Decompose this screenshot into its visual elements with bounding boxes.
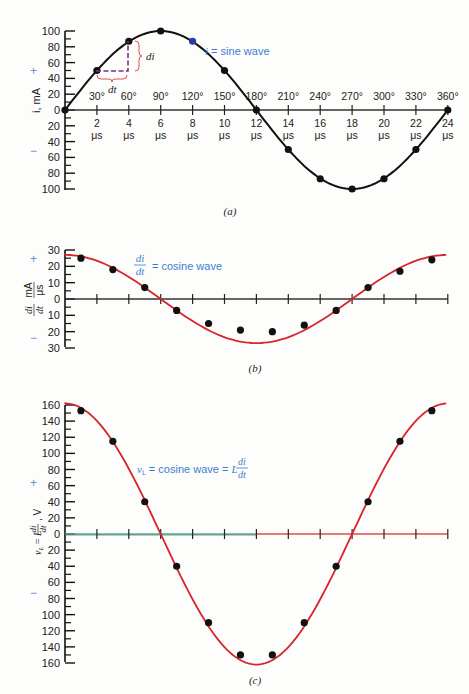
figure-stage: 100806040200204060801002μs30°4μs60°6μs90… bbox=[0, 0, 469, 694]
y-tick-label: 20 bbox=[48, 326, 60, 338]
panel-c-curve-label: vL = cosine wave = L di dt bbox=[137, 456, 248, 480]
x-degree-tick-label: 150° bbox=[214, 90, 236, 102]
x-degree-tick-label: 210° bbox=[277, 90, 299, 102]
data-point bbox=[141, 498, 148, 505]
didt-frac-den: dt bbox=[136, 265, 146, 277]
x-degree-tick-label: 240° bbox=[309, 90, 331, 102]
panel-c-inductor-voltage: 1601401201008060402002040608010012014016… bbox=[28, 399, 448, 687]
data-point bbox=[317, 175, 324, 182]
data-point bbox=[333, 307, 340, 314]
y-tick-label: 10 bbox=[48, 277, 60, 289]
data-point bbox=[237, 651, 244, 658]
x-us-tick-label: 20 bbox=[378, 117, 390, 129]
svg-text:mA: mA bbox=[23, 282, 34, 297]
x-us-tick-label: 6 bbox=[158, 117, 164, 129]
data-point bbox=[285, 146, 292, 153]
data-point bbox=[349, 185, 356, 192]
panel-a-dt-di-markers: dt di bbox=[96, 41, 155, 95]
y-tick-label: 60 bbox=[48, 57, 60, 69]
x-us-unit-label: μs bbox=[283, 129, 294, 141]
data-point bbox=[237, 326, 244, 333]
panel-b-caption: (b) bbox=[249, 362, 262, 375]
y-tick-label: 30 bbox=[48, 244, 60, 256]
panel-b-curve-label: di dt = cosine wave bbox=[134, 252, 222, 277]
curve-label-text: = sine wave bbox=[208, 45, 269, 57]
x-us-tick-label: 12 bbox=[251, 117, 263, 129]
data-point bbox=[412, 146, 419, 153]
data-point bbox=[205, 619, 212, 626]
y-tick-label: 60 bbox=[48, 576, 60, 588]
svg-text:di: di bbox=[28, 525, 38, 533]
data-point bbox=[301, 619, 308, 626]
y-tick-label: 100 bbox=[42, 25, 60, 37]
y-tick-label: 80 bbox=[48, 167, 60, 179]
x-degree-tick-label: 300° bbox=[373, 90, 395, 102]
y-tick-label: 60 bbox=[48, 480, 60, 492]
y-tick-label: 20 bbox=[48, 120, 60, 132]
x-us-unit-label: μs bbox=[155, 129, 166, 141]
data-point bbox=[253, 106, 260, 113]
x-us-tick-label: 24 bbox=[442, 117, 454, 129]
y-tick-label: 10 bbox=[48, 309, 60, 321]
panel-a-ylabel: i, mA bbox=[30, 87, 42, 113]
x-us-unit-label: μs bbox=[378, 129, 389, 141]
y-tick-label: 80 bbox=[48, 593, 60, 605]
x-degree-tick-label: 360° bbox=[437, 90, 459, 102]
x-us-tick-label: 22 bbox=[410, 117, 422, 129]
data-point bbox=[77, 255, 84, 262]
x-us-unit-label: μs bbox=[315, 129, 326, 141]
x-us-tick-label: 2 bbox=[94, 117, 100, 129]
y-tick-label: 20 bbox=[48, 260, 60, 272]
svg-text:i = sine wave: i = sine wave bbox=[205, 45, 270, 57]
data-point bbox=[269, 328, 276, 335]
panel-b-ylabel: di dt mA μs bbox=[23, 282, 45, 316]
panel-b-minus-sign: − bbox=[30, 331, 37, 345]
y-tick-label: 100 bbox=[42, 609, 60, 621]
y-tick-label: 0 bbox=[54, 104, 60, 116]
y-tick-label: 160 bbox=[42, 399, 60, 411]
panel-a-caption: (a) bbox=[224, 205, 237, 218]
y-tick-label: 40 bbox=[48, 496, 60, 508]
panel-c-minus-sign: − bbox=[30, 586, 37, 600]
svg-text:vL = cosine wave = L: vL = cosine wave = L bbox=[137, 463, 238, 476]
svg-text:di: di bbox=[23, 306, 34, 314]
x-degree-tick-label: 270° bbox=[341, 90, 363, 102]
x-us-tick-label: 10 bbox=[219, 117, 231, 129]
x-us-unit-label: μs bbox=[91, 129, 102, 141]
y-tick-label: 80 bbox=[48, 464, 60, 476]
didt-label-text: = cosine wave bbox=[152, 260, 222, 272]
data-point bbox=[173, 307, 180, 314]
y-tick-label: 0 bbox=[54, 293, 60, 305]
y-tick-label: 120 bbox=[42, 625, 60, 637]
y-tick-label: 60 bbox=[48, 151, 60, 163]
y-tick-label: 40 bbox=[48, 136, 60, 148]
data-point bbox=[109, 266, 116, 273]
data-point bbox=[61, 106, 68, 113]
x-us-tick-label: 16 bbox=[314, 117, 326, 129]
panel-a-sine-current: 100806040200204060801002μs30°4μs60°6μs90… bbox=[30, 25, 459, 218]
inductor-waveforms-figure: 100806040200204060801002μs30°4μs60°6μs90… bbox=[0, 0, 469, 694]
panel-a-curve-label: i = sine wave bbox=[205, 45, 270, 57]
x-us-unit-label: μs bbox=[219, 129, 230, 141]
x-degree-tick-label: 330° bbox=[405, 90, 427, 102]
data-point bbox=[173, 563, 180, 570]
panel-a-minus-sign: − bbox=[30, 144, 37, 158]
data-point bbox=[364, 498, 371, 505]
data-point bbox=[428, 256, 435, 263]
dt-brace bbox=[97, 75, 127, 82]
y-tick-label: 140 bbox=[42, 415, 60, 427]
svg-text:, V: , V bbox=[32, 508, 43, 521]
y-tick-label: 40 bbox=[48, 560, 60, 572]
svg-text:dt: dt bbox=[238, 469, 246, 480]
data-point bbox=[380, 175, 387, 182]
panel-b-di-dt: 3020100102030 di dt = cosine wave + − di… bbox=[23, 244, 448, 375]
y-tick-label: 100 bbox=[42, 183, 60, 195]
svg-text:dt: dt bbox=[38, 525, 48, 533]
svg-text:dt: dt bbox=[34, 306, 45, 314]
y-tick-label: 40 bbox=[48, 72, 60, 84]
di-label: di bbox=[146, 50, 155, 62]
y-tick-label: 20 bbox=[48, 544, 60, 556]
svg-text:μs: μs bbox=[34, 285, 45, 296]
y-tick-label: 120 bbox=[42, 431, 60, 443]
data-point bbox=[364, 284, 371, 291]
